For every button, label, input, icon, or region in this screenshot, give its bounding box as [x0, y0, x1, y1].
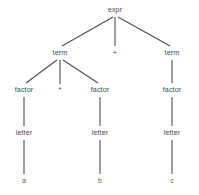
tree-node-star: *	[58, 86, 61, 94]
tree-node-factor3: factor	[163, 86, 182, 93]
tree-node-term1: term	[53, 49, 68, 56]
tree-node-letter2: letter	[92, 129, 109, 136]
parse-tree-figure: exprterm+termfactor*factorfactorletterle…	[0, 0, 199, 195]
tree-node-letter1: letter	[16, 129, 33, 136]
tree-node-expr: expr	[108, 6, 122, 13]
tree-edge	[26, 60, 57, 83]
tree-node-b: b	[98, 177, 102, 184]
tree-node-letter3: letter	[164, 129, 181, 136]
tree-node-term2: term	[165, 49, 180, 56]
tree-edge-layer	[0, 0, 199, 195]
tree-node-c: c	[170, 177, 174, 184]
tree-edge	[118, 17, 170, 46]
tree-node-factor1: factor	[15, 86, 34, 93]
tree-node-a: a	[22, 177, 26, 184]
tree-node-plus: +	[113, 49, 118, 57]
tree-node-factor2: factor	[91, 86, 110, 93]
tree-edge	[63, 60, 98, 83]
tree-edge	[62, 17, 113, 46]
